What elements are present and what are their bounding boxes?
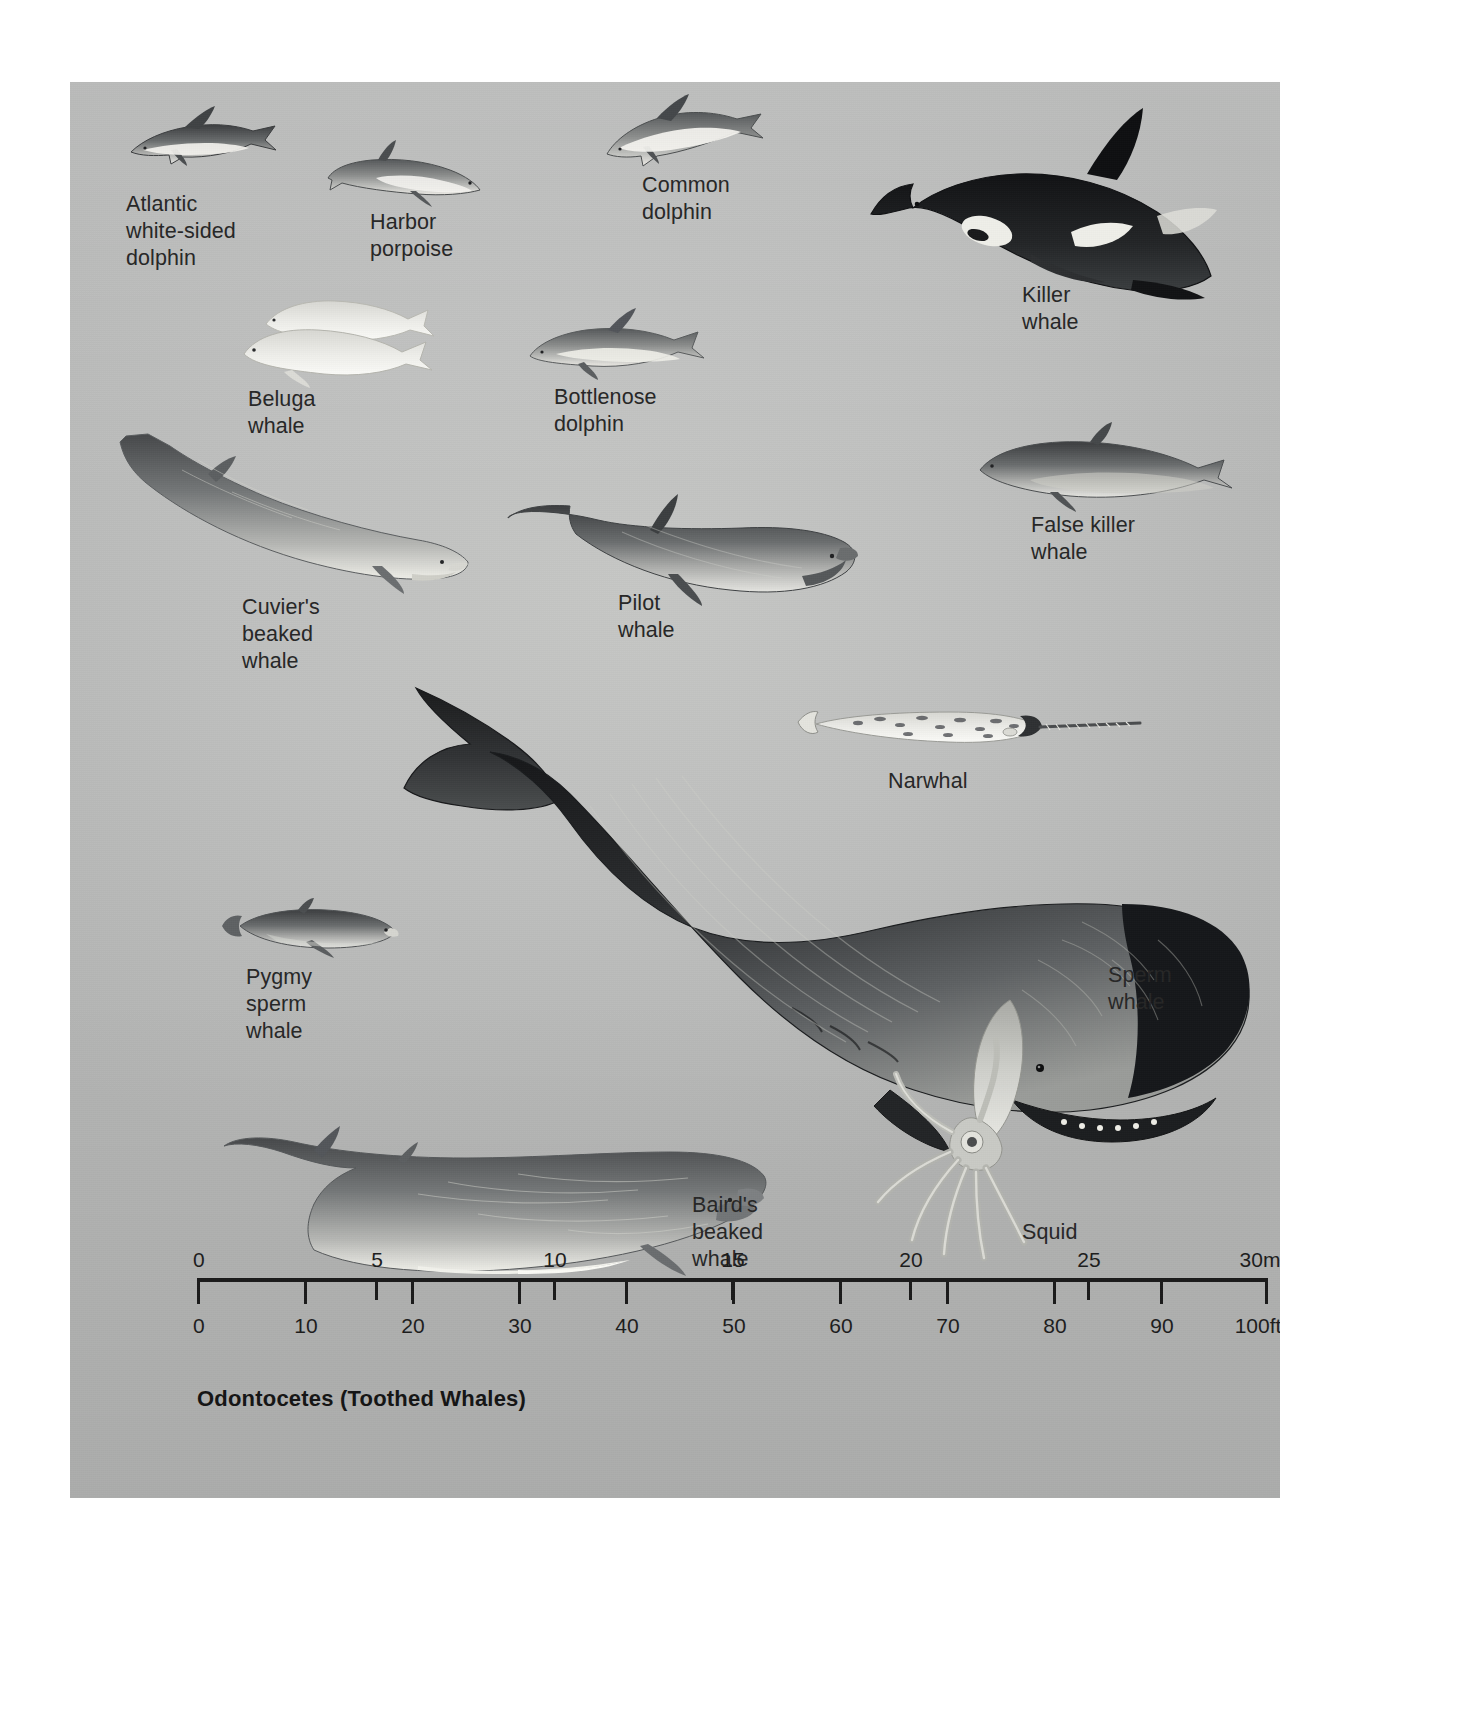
imperial-tick-90	[1160, 1282, 1163, 1304]
figure-pilot-whale	[502, 478, 872, 608]
label-beluga-whale: Beluga whale	[248, 386, 316, 440]
figure-atlantic-white-sided-dolphin	[125, 100, 285, 180]
figure-sperm-whale	[322, 660, 1280, 1180]
imperial-tick-10	[304, 1282, 307, 1304]
imperial-tick-70	[946, 1282, 949, 1304]
metric-label-25: 25	[1077, 1248, 1100, 1272]
imperial-tick-60	[839, 1282, 842, 1304]
metric-tick-5	[375, 1278, 378, 1300]
figure-cuviers-beaked-whale	[112, 434, 482, 604]
metric-tick-10	[553, 1278, 556, 1300]
figure-harbor-porpoise	[320, 134, 490, 214]
imperial-label-70: 70	[936, 1314, 959, 1338]
label-false-killer-whale: False killer whale	[1031, 512, 1135, 566]
metric-label-0: 0	[193, 1248, 205, 1272]
imperial-label-80: 80	[1043, 1314, 1066, 1338]
metric-tick-25	[1087, 1278, 1090, 1300]
metric-label-10: 10	[543, 1248, 566, 1272]
label-bottlenose-dolphin: Bottlenose dolphin	[554, 384, 657, 438]
label-common-dolphin: Common dolphin	[642, 172, 730, 226]
imperial-label-10: 10	[294, 1314, 317, 1338]
imperial-label-30: 30	[508, 1314, 531, 1338]
metric-tick-20	[909, 1278, 912, 1300]
label-pygmy-sperm-whale: Pygmy sperm whale	[246, 964, 312, 1045]
label-squid: Squid	[1022, 1219, 1078, 1246]
figure-common-dolphin	[595, 86, 770, 171]
imperial-tick-0	[197, 1282, 200, 1304]
metric-label-20: 20	[899, 1248, 922, 1272]
label-harbor-porpoise: Harbor porpoise	[370, 209, 453, 263]
imperial-label-0: 0	[193, 1314, 205, 1338]
plate-caption: Odontocetes (Toothed Whales)	[197, 1386, 526, 1412]
imperial-tick-30	[518, 1282, 521, 1304]
imperial-label-50: 50	[722, 1314, 745, 1338]
imperial-tick-100	[1265, 1282, 1268, 1304]
label-killer-whale: Killer whale	[1022, 282, 1079, 336]
illustration-plate: Atlantic white-sided dolphin Harbor porp…	[70, 82, 1280, 1498]
imperial-tick-40	[625, 1282, 628, 1304]
figure-bottlenose-dolphin	[522, 300, 712, 385]
figure-beluga-whale	[238, 278, 448, 388]
label-sperm-whale: Sperm whale	[1108, 962, 1172, 1016]
metric-label-5: 5	[371, 1248, 383, 1272]
metric-label-30: 30m	[1240, 1248, 1280, 1272]
imperial-label-60: 60	[829, 1314, 852, 1338]
label-pilot-whale: Pilot whale	[618, 590, 675, 644]
label-atlantic-white-sided-dolphin: Atlantic white-sided dolphin	[126, 191, 236, 272]
imperial-label-100: 100ft	[1235, 1314, 1280, 1338]
scale-bars: 0 5 10 15 20 25 30m 0 10 20 30 40 50 60 …	[70, 1278, 1280, 1498]
imperial-tick-20	[411, 1282, 414, 1304]
imperial-tick-80	[1053, 1282, 1056, 1304]
imperial-label-90: 90	[1150, 1314, 1173, 1338]
figure-false-killer-whale	[970, 422, 1240, 512]
imperial-label-40: 40	[615, 1314, 638, 1338]
imperial-tick-50	[732, 1282, 735, 1304]
imperial-label-20: 20	[401, 1314, 424, 1338]
metric-label-15: 15	[721, 1248, 744, 1272]
label-cuviers-beaked-whale: Cuvier's beaked whale	[242, 594, 320, 675]
